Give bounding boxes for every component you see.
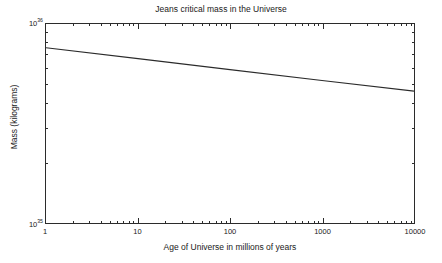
- plot-area: [45, 23, 415, 224]
- axis-tick-top: [193, 23, 194, 26]
- axis-tick-left: [45, 128, 48, 129]
- axis-tick-top: [308, 23, 309, 26]
- axis-tick-bottom: [129, 221, 130, 224]
- axis-tick-right: [412, 103, 415, 104]
- axis-tick-bottom: [406, 221, 407, 224]
- axis-tick-bottom: [89, 221, 90, 224]
- axis-tick-top: [295, 23, 296, 26]
- axis-tick-bottom: [323, 218, 324, 224]
- axis-tick-bottom: [401, 221, 402, 224]
- axis-tick-bottom: [318, 221, 319, 224]
- axis-tick-top: [89, 23, 90, 26]
- axis-tick-left: [45, 42, 48, 43]
- axis-tick-left: [45, 223, 51, 224]
- axis-tick-right: [412, 163, 415, 164]
- axis-tick-left: [45, 23, 51, 24]
- axis-tick-top: [216, 23, 217, 26]
- axis-tick-bottom: [123, 221, 124, 224]
- x-tick-label: 10000: [405, 227, 426, 236]
- axis-tick-right: [409, 223, 415, 224]
- axis-tick-bottom: [202, 221, 203, 224]
- axis-tick-right: [412, 42, 415, 43]
- axis-tick-top: [73, 23, 74, 26]
- axis-tick-top: [101, 23, 102, 26]
- axis-tick-top: [387, 23, 388, 26]
- axis-tick-left: [45, 163, 48, 164]
- y-tick-label: 1035: [29, 220, 43, 229]
- axis-tick-top: [129, 23, 130, 26]
- axis-tick-bottom: [101, 221, 102, 224]
- axis-tick-bottom: [221, 221, 222, 224]
- axis-tick-bottom: [226, 221, 227, 224]
- axis-tick-top: [226, 23, 227, 26]
- axis-tick-top: [110, 23, 111, 26]
- axis-tick-right: [412, 54, 415, 55]
- axis-tick-bottom: [302, 221, 303, 224]
- series-line-jeans-critical-mass: [46, 48, 414, 91]
- axis-tick-top: [274, 23, 275, 26]
- x-tick-label: 100: [224, 227, 237, 236]
- axis-tick-bottom: [286, 221, 287, 224]
- axis-tick-bottom: [193, 221, 194, 224]
- axis-tick-top: [378, 23, 379, 26]
- axis-tick-top: [258, 23, 259, 26]
- axis-tick-bottom: [165, 221, 166, 224]
- x-tick-label: 10: [133, 227, 141, 236]
- axis-tick-top: [314, 23, 315, 26]
- axis-tick-bottom: [117, 221, 118, 224]
- axis-tick-left: [45, 84, 48, 85]
- axis-tick-bottom: [394, 221, 395, 224]
- axis-tick-bottom: [110, 221, 111, 224]
- y-axis-title: Mass (kilograms): [9, 57, 19, 177]
- axis-tick-left: [45, 32, 48, 33]
- axis-tick-top: [323, 23, 324, 29]
- x-tick-label: 1: [43, 227, 47, 236]
- axis-tick-bottom: [73, 221, 74, 224]
- axis-tick-top: [133, 23, 134, 26]
- axis-tick-bottom: [216, 221, 217, 224]
- axis-tick-top: [286, 23, 287, 26]
- axis-tick-bottom: [314, 221, 315, 224]
- axis-tick-top: [182, 23, 183, 26]
- axis-tick-bottom: [230, 218, 231, 224]
- axis-tick-top: [202, 23, 203, 26]
- chart-figure: Jeans critical mass in the Universe Age …: [0, 0, 442, 263]
- axis-tick-top: [406, 23, 407, 26]
- x-tick-label: 1000: [314, 227, 331, 236]
- axis-tick-left: [45, 54, 48, 55]
- axis-tick-left: [45, 103, 48, 104]
- axis-tick-top: [117, 23, 118, 26]
- axis-tick-bottom: [258, 221, 259, 224]
- axis-tick-top: [318, 23, 319, 26]
- axis-tick-bottom: [308, 221, 309, 224]
- axis-tick-bottom: [295, 221, 296, 224]
- y-tick-label: 1036: [29, 19, 43, 28]
- axis-tick-bottom: [387, 221, 388, 224]
- data-series-layer: [46, 24, 414, 223]
- chart-title: Jeans critical mass in the Universe: [0, 4, 442, 14]
- axis-tick-right: [409, 23, 415, 24]
- axis-tick-top: [138, 23, 139, 29]
- axis-tick-right: [412, 68, 415, 69]
- axis-tick-top: [394, 23, 395, 26]
- axis-tick-top: [350, 23, 351, 26]
- axis-tick-top: [221, 23, 222, 26]
- axis-tick-bottom: [182, 221, 183, 224]
- axis-tick-top: [302, 23, 303, 26]
- axis-tick-bottom: [209, 221, 210, 224]
- axis-tick-bottom: [133, 221, 134, 224]
- axis-tick-left: [45, 68, 48, 69]
- axis-tick-top: [401, 23, 402, 26]
- axis-tick-bottom: [367, 221, 368, 224]
- axis-tick-top: [123, 23, 124, 26]
- axis-tick-bottom: [138, 218, 139, 224]
- axis-tick-right: [412, 32, 415, 33]
- axis-tick-right: [412, 128, 415, 129]
- axis-tick-right: [412, 84, 415, 85]
- axis-tick-top: [230, 23, 231, 29]
- axis-tick-bottom: [274, 221, 275, 224]
- axis-tick-bottom: [378, 221, 379, 224]
- axis-tick-top: [367, 23, 368, 26]
- x-axis-title: Age of Universe in millions of years: [45, 242, 415, 252]
- axis-tick-bottom: [350, 221, 351, 224]
